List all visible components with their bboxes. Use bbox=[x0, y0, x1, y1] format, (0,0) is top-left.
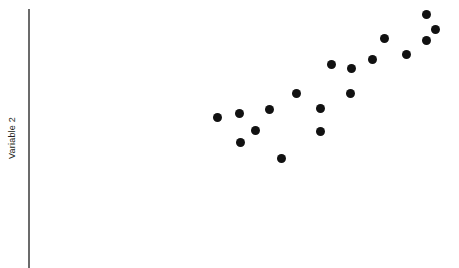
data-point bbox=[347, 64, 356, 73]
data-point bbox=[368, 55, 377, 64]
data-point bbox=[213, 113, 222, 122]
data-point bbox=[380, 34, 389, 43]
data-point bbox=[316, 127, 325, 136]
data-point bbox=[292, 89, 301, 98]
data-point bbox=[327, 60, 336, 69]
plot-area bbox=[0, 0, 459, 268]
data-point bbox=[251, 126, 260, 135]
data-point bbox=[316, 104, 325, 113]
data-point bbox=[235, 109, 244, 118]
data-point bbox=[431, 25, 440, 34]
data-point bbox=[402, 50, 411, 59]
data-point bbox=[422, 36, 431, 45]
data-point bbox=[277, 154, 286, 163]
data-point bbox=[236, 138, 245, 147]
data-point bbox=[346, 89, 355, 98]
scatter-plot-figure: Variable 2 bbox=[0, 0, 459, 268]
data-point bbox=[265, 105, 274, 114]
data-point bbox=[422, 10, 431, 19]
